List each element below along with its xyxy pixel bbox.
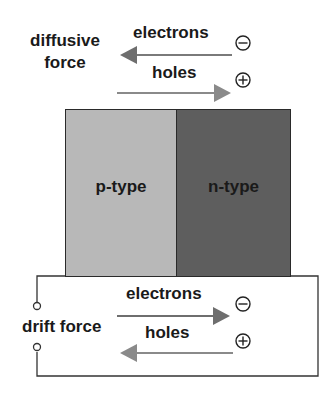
p-type-label: p-type — [66, 177, 176, 197]
diffusion-holes-arrow-icon — [117, 84, 231, 102]
n-type-label: n-type — [177, 177, 290, 197]
diffusive-label-line1: diffusive — [20, 32, 110, 50]
p-type-region: p-type — [65, 109, 177, 277]
terminal-top-icon — [34, 303, 41, 310]
drift-force-label: drift force — [22, 318, 101, 336]
diffusion-electrons-arrow-icon — [120, 46, 232, 64]
hole-plus-icon — [236, 334, 250, 348]
diffusion-holes-label: holes — [152, 64, 196, 82]
n-type-region: n-type — [176, 109, 291, 277]
terminal-bottom-icon — [34, 344, 41, 351]
diffusive-label-line2: force — [20, 54, 110, 72]
electron-minus-icon — [236, 36, 250, 50]
drift-holes-arrow-icon — [120, 344, 233, 362]
electron-minus-icon — [236, 297, 250, 311]
diffusion-electrons-label: electrons — [133, 24, 209, 42]
hole-plus-icon — [236, 73, 250, 87]
drift-holes-label: holes — [145, 324, 189, 342]
drift-electrons-label: electrons — [126, 285, 202, 303]
diffusive-force-label: diffusive force — [20, 32, 110, 72]
